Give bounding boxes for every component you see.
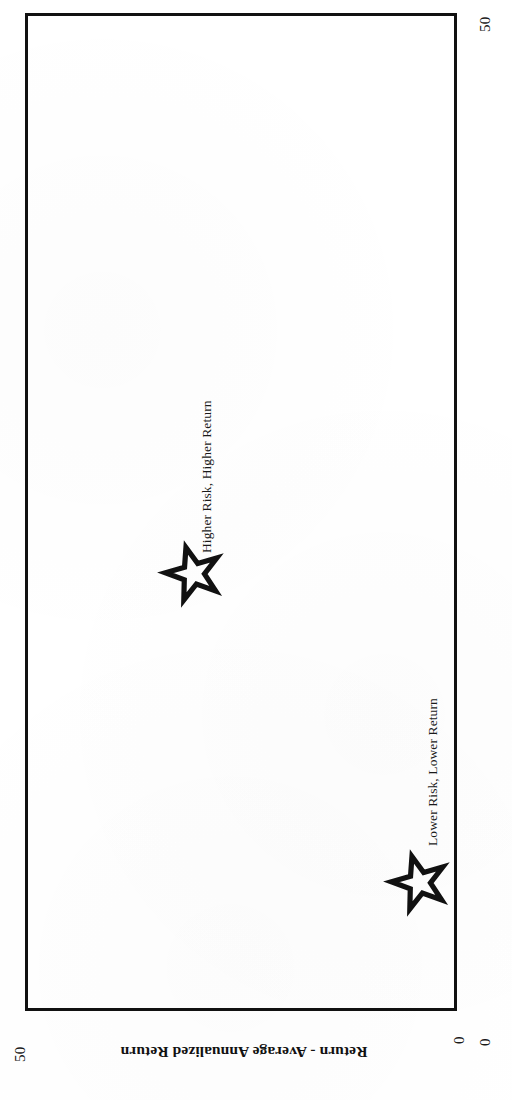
star-icon (390, 852, 448, 910)
y-axis-min-tick-label: 0 (478, 1038, 493, 1046)
chart-canvas: 50 0 50 0 Return - Average Annualized Re… (0, 0, 512, 1100)
x-axis-max-tick-label: 50 (13, 1047, 28, 1062)
y-axis-max-tick-label: 50 (478, 17, 493, 32)
annotation-higher-risk-higher-return: Higher Risk, Higher Return (200, 400, 214, 553)
annotation-lower-risk-lower-return: Lower Risk, Lower Return (426, 698, 440, 846)
y-axis-title: Return - Average Annualized Return (88, 1044, 400, 1060)
data-point-lower-risk-lower-return[interactable] (390, 852, 448, 910)
x-axis-min-tick-label: 0 (452, 1036, 467, 1044)
